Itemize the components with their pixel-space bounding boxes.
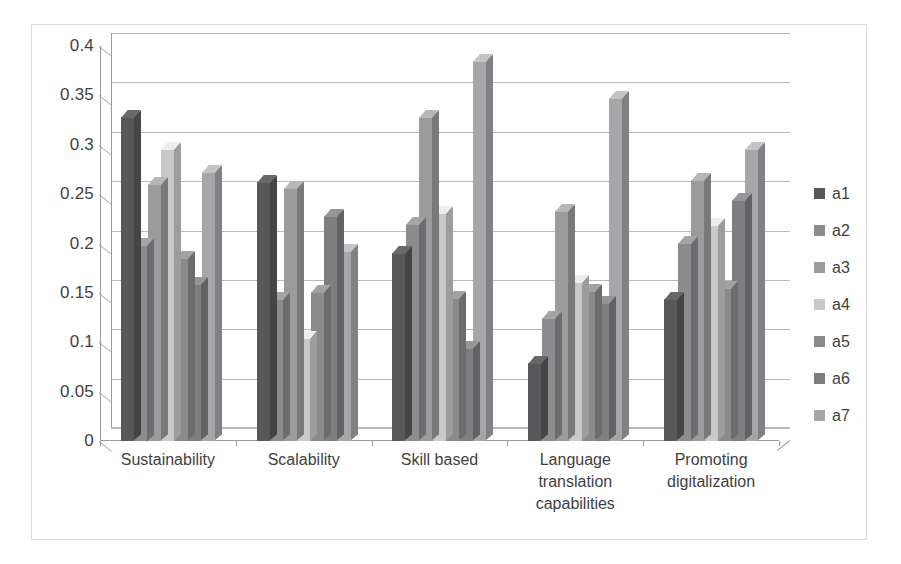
category-tick — [507, 441, 508, 446]
bar-side-facet — [404, 247, 412, 441]
category-label-line: Skill based — [372, 449, 508, 471]
category-label-1: Sustainability — [100, 449, 236, 471]
bar-side-facet — [269, 176, 277, 441]
chart-frame: 00.050.10.150.20.250.30.350.4 Sustainabi… — [31, 24, 867, 540]
bar-side-facet — [676, 292, 684, 441]
legend-swatch-icon — [814, 336, 825, 347]
category-tick — [100, 441, 101, 446]
bar-side-facet — [717, 218, 725, 441]
y-axis-tick-label: 0.35 — [60, 86, 94, 103]
bar-a1-3[interactable] — [392, 253, 405, 441]
legend-item-a4[interactable]: a4 — [814, 286, 884, 323]
chart-gridline — [111, 33, 790, 34]
bar-side-facet — [744, 193, 752, 441]
y-axis-tick-label: 0.1 — [70, 333, 94, 350]
legend-label: a5 — [832, 334, 850, 350]
legend-item-a5[interactable]: a5 — [814, 323, 884, 360]
category-tick — [779, 441, 780, 446]
bar-side-facet — [309, 332, 317, 441]
bar-side-facet — [567, 204, 575, 441]
category-label-2: Scalability — [236, 449, 372, 471]
legend-item-a6[interactable]: a6 — [814, 360, 884, 397]
bar-group — [507, 46, 643, 441]
legend-swatch-icon — [814, 188, 825, 199]
chart-plot-wrapper: 00.050.10.150.20.250.30.350.4 Sustainabi… — [32, 25, 866, 539]
legend-swatch-icon — [814, 262, 825, 273]
legend-item-a2[interactable]: a2 — [814, 212, 884, 249]
bar-side-facet — [282, 292, 290, 441]
category-label-line: capabilities — [507, 493, 643, 515]
bar-a1-4[interactable] — [528, 363, 541, 441]
bar-side-facet — [323, 285, 331, 441]
bar-a1-2[interactable] — [257, 182, 270, 441]
legend-swatch-icon — [814, 373, 825, 384]
bar-side-facet — [445, 206, 453, 441]
bar-side-facet — [608, 296, 616, 441]
y-axis-tick-label: 0.4 — [70, 37, 94, 54]
bar-side-facet — [200, 277, 208, 441]
bar-side-facet — [703, 174, 711, 441]
category-label-5: Promotingdigitalization — [643, 449, 779, 493]
bar-side-facet — [458, 291, 466, 441]
legend-item-a7[interactable]: a7 — [814, 397, 884, 434]
legend-label: a3 — [832, 260, 850, 276]
legend-swatch-icon — [814, 299, 825, 310]
legend-label: a4 — [832, 297, 850, 313]
bar-side-facet — [336, 209, 344, 441]
bar-side-facet — [187, 252, 195, 441]
category-label-line: Promoting — [643, 449, 779, 471]
bar-a1-1[interactable] — [121, 117, 134, 441]
bar-side-facet — [690, 236, 698, 441]
y-axis-tick-label: 0.15 — [60, 284, 94, 301]
bar-side-facet — [146, 238, 154, 441]
y-axis-tick-label: 0.3 — [70, 136, 94, 153]
category-label-line: translation — [507, 471, 643, 493]
category-label-line: Language — [507, 449, 643, 471]
bar-group — [372, 46, 508, 441]
bar-side-facet — [133, 110, 141, 441]
bar-side-facet — [431, 110, 439, 441]
category-label-line: Scalability — [236, 449, 372, 471]
bar-face — [528, 363, 541, 441]
y-axis-tick-label: 0.25 — [60, 185, 94, 202]
category-tick — [643, 441, 644, 446]
category-axis-labels: SustainabilityScalabilitySkill basedLang… — [100, 449, 790, 535]
category-tick — [372, 441, 373, 446]
bar-side-facet — [485, 54, 493, 441]
bar-side-facet — [621, 92, 629, 441]
legend-label: a7 — [832, 408, 850, 424]
category-tick — [236, 441, 237, 446]
legend-swatch-icon — [814, 410, 825, 421]
bar-side-facet — [296, 181, 304, 441]
bar-side-facet — [540, 356, 548, 441]
legend-swatch-icon — [814, 225, 825, 236]
bar-face — [664, 299, 677, 441]
bar-a1-5[interactable] — [664, 299, 677, 441]
bar-group — [236, 46, 372, 441]
bar-side-facet — [472, 341, 480, 441]
y-axis-tick-label: 0.2 — [70, 235, 94, 252]
category-label-4: Languagetranslationcapabilities — [507, 449, 643, 515]
bar-face — [257, 182, 270, 441]
bar-group — [643, 46, 779, 441]
bar-face — [121, 117, 134, 441]
y-axis-tick-labels: 00.050.10.150.20.250.30.350.4 — [38, 25, 94, 539]
bar-side-facet — [730, 281, 738, 441]
bar-side-facet — [594, 284, 602, 441]
bar-side-facet — [350, 245, 358, 441]
bar-side-facet — [173, 142, 181, 441]
chart-legend: a1a2a3a4a5a6a7 — [814, 175, 884, 434]
legend-item-a3[interactable]: a3 — [814, 249, 884, 286]
category-label-line: digitalization — [643, 471, 779, 493]
y-axis-tick-label: 0 — [84, 432, 94, 449]
category-label-line: Sustainability — [100, 449, 236, 471]
legend-label: a1 — [832, 186, 850, 202]
chart-plot-area — [100, 33, 790, 441]
chart-bars-layer — [100, 46, 779, 441]
legend-label: a6 — [832, 371, 850, 387]
bar-side-facet — [418, 217, 426, 441]
bar-face — [392, 253, 405, 441]
category-label-3: Skill based — [372, 449, 508, 471]
legend-item-a1[interactable]: a1 — [814, 175, 884, 212]
bar-side-facet — [757, 142, 765, 441]
